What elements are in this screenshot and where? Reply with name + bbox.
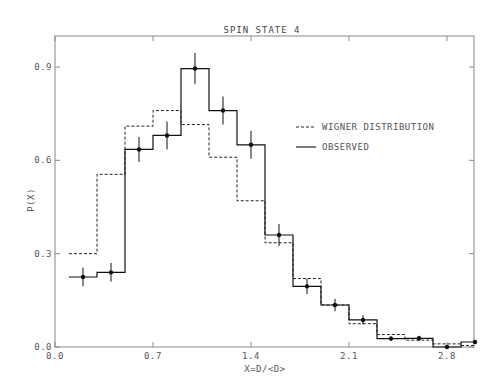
data-point: [361, 318, 365, 322]
y-tick-label: 0.3: [34, 249, 52, 259]
legend-wigner-label: WIGNER DISTRIBUTION: [322, 122, 434, 132]
x-tick-label: 1.4: [242, 351, 260, 361]
x-tick-label: 0.0: [46, 351, 64, 361]
data-point: [277, 233, 281, 237]
data-point: [333, 303, 337, 307]
data-point: [305, 284, 309, 288]
histogram-chart: 0.00.71.42.12.80.00.30.60.9 SPIN STATE 4…: [0, 0, 500, 392]
data-point: [417, 336, 421, 340]
y-tick-label: 0.9: [34, 62, 52, 72]
data-point: [81, 275, 85, 279]
y-axis-label: P(X): [26, 188, 36, 212]
y-tick-label: 0.6: [34, 155, 52, 165]
data-point: [389, 336, 393, 340]
x-tick-label: 2.1: [340, 351, 358, 361]
x-axis-label: X=D/<D>: [244, 364, 286, 374]
data-point: [473, 340, 477, 344]
data-point: [137, 147, 141, 151]
data-point: [445, 345, 449, 349]
axis-ticks: 0.00.71.42.12.80.00.30.60.9: [34, 36, 474, 361]
data-point: [249, 143, 253, 147]
x-tick-label: 0.7: [144, 351, 162, 361]
observed-series: [69, 53, 477, 349]
legend: WIGNER DISTRIBUTION OBSERVED: [296, 122, 434, 152]
x-tick-label: 2.8: [438, 351, 456, 361]
y-tick-label: 0.0: [34, 342, 52, 352]
data-point: [165, 133, 169, 137]
data-point: [221, 108, 225, 112]
chart-title: SPIN STATE 4: [223, 25, 300, 35]
data-point: [193, 66, 197, 70]
data-point: [109, 270, 113, 274]
wigner-distribution-series: [69, 111, 475, 346]
legend-observed-label: OBSERVED: [322, 142, 369, 152]
